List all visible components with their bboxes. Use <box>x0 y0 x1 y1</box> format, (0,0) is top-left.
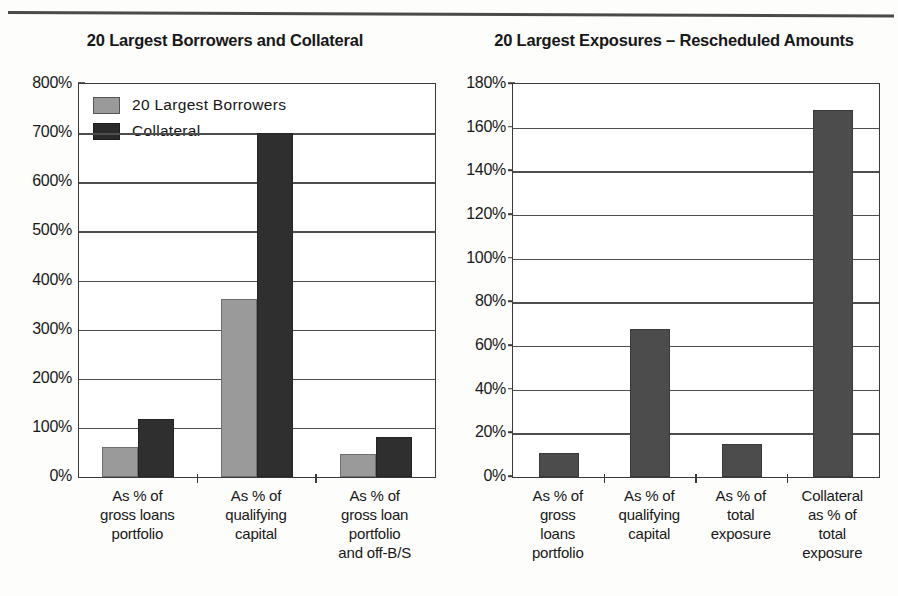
x-axis-label-line: total <box>787 524 879 543</box>
bar <box>722 444 762 477</box>
plot-area-left: 20 Largest Borrowers Collateral <box>78 83 436 478</box>
y-axis-tick-label: 400% <box>32 271 72 289</box>
y-axis-right: 0%20%40%60%80%100%120%140%160%180% <box>452 83 506 478</box>
y-axis-tick-label: 200% <box>32 369 72 387</box>
x-axis-label-line: qualifying <box>604 505 696 524</box>
x-axis-tick <box>787 474 789 483</box>
x-axis-left <box>78 478 436 486</box>
y-axis-tick-label: 800% <box>32 74 72 92</box>
bar <box>102 447 138 477</box>
x-axis-label: As % ofgross loanportfolioand off-B/S <box>315 486 434 562</box>
legend-swatch-borrowers <box>93 97 120 114</box>
x-axis-label: As % ofgross loansportfolio <box>78 486 197 543</box>
y-axis-tick-label: 40% <box>475 380 506 398</box>
bar <box>813 110 853 477</box>
legend-swatch-collateral <box>93 123 120 140</box>
bar <box>221 299 257 477</box>
x-axis-label-line: As % of <box>78 486 197 505</box>
x-axis-label-line: gross loans <box>78 505 197 524</box>
x-axis-label-line: portfolio <box>78 524 197 543</box>
chart-title-left: 20 Largest Borrowers and Collateral <box>0 31 450 50</box>
x-axis-label-line: as % of <box>787 505 879 524</box>
y-axis-tick-label: 0% <box>483 467 506 485</box>
x-axis-label: As % ofqualifyingcapital <box>197 486 316 543</box>
y-axis-tick-label: 500% <box>32 221 72 239</box>
plot-area-right <box>512 83 880 478</box>
x-axis-label: Collateralas % oftotalexposure <box>787 486 879 562</box>
x-axis-label-line: As % of <box>695 486 787 505</box>
y-axis-tick-label: 700% <box>32 123 72 141</box>
y-axis-tick-label: 100% <box>32 418 72 436</box>
x-axis-label-line: gross loan <box>315 505 434 524</box>
y-axis-tick-label: 20% <box>475 423 506 441</box>
x-axis-label-line: exposure <box>787 543 879 562</box>
y-axis-left: 0%100%200%300%400%500%600%700%800% <box>8 83 72 478</box>
y-axis-tick-label: 0% <box>49 467 72 485</box>
x-axis-label-line: qualifying <box>197 505 316 524</box>
x-axis-tick <box>604 474 606 483</box>
x-axis-label-line: capital <box>197 524 316 543</box>
chart-title-right: 20 Largest Exposures – Rescheduled Amoun… <box>450 31 898 50</box>
legend-label-borrowers: 20 Largest Borrowers <box>132 96 286 114</box>
x-axis-label-line: exposure <box>695 524 787 543</box>
x-axis-label-line: Collateral <box>787 486 879 505</box>
bar <box>257 133 293 477</box>
legend-label-collateral: Collateral <box>132 122 200 140</box>
x-axis-label-line: portfolio <box>512 543 604 562</box>
page-root: 20 Largest Borrowers and Collateral 0%10… <box>0 0 898 596</box>
x-axis-label-line: gross <box>512 505 604 524</box>
x-axis-label-line: and off-B/S <box>315 543 434 562</box>
x-axis-tick <box>695 474 697 483</box>
bar <box>376 437 412 477</box>
y-axis-tick-label: 300% <box>32 320 72 338</box>
bar <box>138 419 174 477</box>
x-axis-label: As % oftotalexposure <box>695 486 787 543</box>
x-axis-label-line: capital <box>604 524 696 543</box>
x-axis-label-line: As % of <box>197 486 316 505</box>
x-axis-label-line: As % of <box>315 486 434 505</box>
x-axis-tick <box>315 474 317 483</box>
x-axis-tick <box>197 474 199 483</box>
bar <box>630 329 670 477</box>
bar <box>340 454 376 477</box>
x-axis-label-line: loans <box>512 524 604 543</box>
bar <box>539 453 579 477</box>
x-axis-label-line: As % of <box>604 486 696 505</box>
y-axis-tick-label: 60% <box>475 336 506 354</box>
y-axis-tick-label: 600% <box>32 172 72 190</box>
x-axis-label-line: As % of <box>512 486 604 505</box>
x-axis-label: As % ofgrossloansportfolio <box>512 486 604 562</box>
legend-item: 20 Largest Borrowers <box>93 92 286 118</box>
y-axis-tick-label: 160% <box>466 118 506 136</box>
y-axis-tick-label: 80% <box>475 292 506 310</box>
x-axis-label: As % ofqualifyingcapital <box>604 486 696 543</box>
y-axis-tick-label: 180% <box>466 74 506 92</box>
x-axis-right <box>512 478 880 486</box>
y-axis-tick-label: 120% <box>466 205 506 223</box>
x-axis-label-line: total <box>695 505 787 524</box>
y-axis-tick-label: 140% <box>466 161 506 179</box>
x-axis-label-line: portfolio <box>315 524 434 543</box>
chart-panel-left: 20 Largest Borrowers and Collateral 0%10… <box>0 0 450 596</box>
y-axis-tick-label: 100% <box>466 249 506 267</box>
